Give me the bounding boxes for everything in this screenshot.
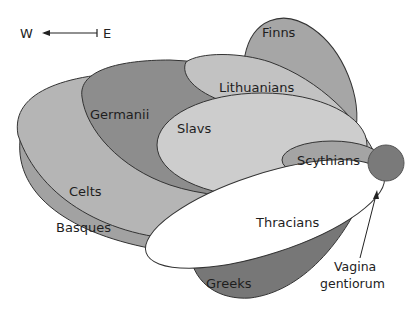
origin-circle [368,145,404,181]
label-lithuanians: Lithuanians [219,80,294,95]
label-finns: Finns [262,25,296,40]
compass-east-label: E [103,26,111,41]
label-slavs: Slavs [177,121,212,136]
compass: W E [20,26,111,41]
label-thracians: Thracians [255,215,319,230]
label-germanii: Germanii [90,107,149,122]
arrow-left-icon [42,30,50,36]
ethnic-origins-diagram: W E Finns Lithuanians Germanii Slavs Scy… [0,0,409,313]
compass-west-label: W [20,26,33,41]
label-greeks: Greeks [206,276,252,291]
label-basques: Basques [56,220,111,235]
label-origin-line2: gentiorum [320,276,385,291]
label-origin-line1: Vagina [334,259,376,274]
label-celts: Celts [69,184,102,199]
label-scythians: Scythians [297,153,360,168]
